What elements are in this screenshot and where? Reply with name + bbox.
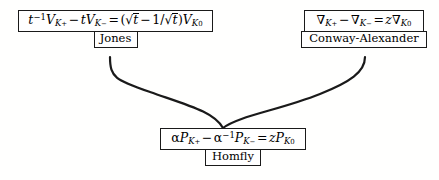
label-homfly[interactable]: Homfly: [205, 149, 261, 166]
label-conway-alexander[interactable]: Conway-Alexander: [301, 31, 427, 48]
formula-jones-expression: t−1VK+−tVK−=(√t−1/√t)VK0: [28, 13, 202, 28]
label-jones[interactable]: Jones: [94, 31, 138, 48]
edge-conway-to-homfly: [223, 57, 365, 128]
formula-conway-expression: ∇K+−∇K−=z∇K0: [317, 14, 412, 28]
node-homfly[interactable]: αPK+−α−1PK−=zPK0 Homfly: [160, 128, 306, 166]
label-jones-text: Jones: [100, 33, 132, 45]
formula-homfly: αPK+−α−1PK−=zPK0: [160, 128, 306, 150]
formula-conway-alexander: ∇K+−∇K−=z∇K0: [304, 10, 424, 32]
node-jones[interactable]: t−1VK+−tVK−=(√t−1/√t)VK0 Jones: [18, 10, 213, 48]
formula-jones: t−1VK+−tVK−=(√t−1/√t)VK0: [18, 10, 213, 32]
formula-homfly-expression: αPK+−α−1PK−=zPK0: [171, 131, 294, 146]
edge-jones-to-homfly: [110, 57, 223, 128]
label-conway-alexander-text: Conway-Alexander: [309, 33, 418, 45]
diagram-canvas: t−1VK+−tVK−=(√t−1/√t)VK0 Jones ∇K+−∇K−=z…: [0, 0, 439, 180]
node-conway-alexander[interactable]: ∇K+−∇K−=z∇K0 Conway-Alexander: [301, 10, 427, 48]
label-homfly-text: Homfly: [212, 151, 254, 163]
